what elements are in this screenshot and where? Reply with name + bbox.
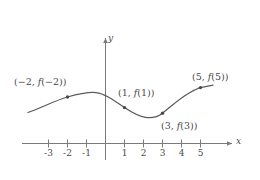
point-label-x-neg2-prefix: (−2, xyxy=(14,76,38,87)
data-point-x-1 xyxy=(123,106,126,109)
point-label-x-5-prefix: (5, xyxy=(192,71,208,82)
point-label-x-neg2-suffix: (−2)) xyxy=(41,76,66,87)
x-axis-arrow-icon xyxy=(227,141,232,146)
data-point-x-3 xyxy=(161,112,164,115)
y-axis-name: y xyxy=(108,33,113,43)
point-label-x-neg2: (−2, f(−2)) xyxy=(14,76,66,87)
x-tick-label-2: 2 xyxy=(137,148,151,158)
point-label-x-5: (5, f(5)) xyxy=(192,71,229,82)
x-tick-label-5: 5 xyxy=(194,148,208,158)
x-tick-label-1: 1 xyxy=(118,148,132,158)
function-graph-figure: -3 -2 -1 1 2 3 4 5 x y (−2, f(−2)) (1, f… xyxy=(0,0,260,180)
point-label-x-3: (3, f(3)) xyxy=(161,120,198,131)
point-label-x-5-suffix: (5)) xyxy=(211,71,228,82)
point-label-x-1-prefix: (1, xyxy=(118,87,134,98)
point-label-x-3-prefix: (3, xyxy=(161,120,177,131)
data-point-x-neg2 xyxy=(66,95,69,98)
x-tick-label-4: 4 xyxy=(175,148,189,158)
x-axis-name: x xyxy=(236,136,241,146)
data-point-x-5 xyxy=(199,86,202,89)
x-tick-label--1: -1 xyxy=(80,148,94,158)
x-tick-label--2: -2 xyxy=(61,148,75,158)
point-label-x-1: (1, f(1)) xyxy=(118,87,155,98)
x-tick-label-3: 3 xyxy=(156,148,170,158)
point-label-x-1-suffix: (1)) xyxy=(137,87,154,98)
x-tick-label--3: -3 xyxy=(42,148,56,158)
point-label-x-3-suffix: (3)) xyxy=(180,120,197,131)
